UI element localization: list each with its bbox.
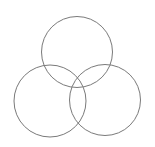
venn-diagram-canvas	[0, 0, 155, 147]
venn-diagram	[0, 0, 155, 147]
bottom-right-circle	[70, 65, 141, 136]
